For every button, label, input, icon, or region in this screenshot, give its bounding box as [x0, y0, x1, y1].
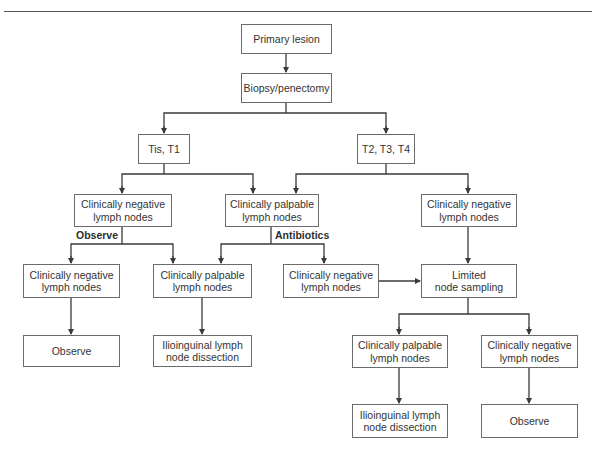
node-observe-l6-right: Observe: [481, 404, 578, 438]
node-label-line2: node sampling: [435, 281, 503, 294]
node-label-line2: node dissection: [364, 421, 437, 434]
node-limited-node-sampling: Limited node sampling: [421, 264, 517, 298]
node-clinically-negative-l3-right: Clinically negative lymph nodes: [421, 194, 517, 227]
node-observe-l5-left: Observe: [23, 335, 120, 367]
node-label: T2, T3, T4: [362, 143, 410, 156]
node-ilioinguinal-dissection-l6-right: Ilioinguinal lymph node dissection: [352, 404, 448, 438]
edge-label-antibiotics: Antibiotics: [275, 229, 329, 241]
node-label: Observe: [52, 345, 92, 358]
node-label-line2: lymph nodes: [93, 211, 153, 224]
node-label-line2: lymph nodes: [439, 211, 499, 224]
node-label-line1: Ilioinguinal lymph: [162, 339, 243, 352]
node-label-line1: Clinically palpable: [230, 198, 314, 211]
node-label-line1: Limited: [452, 269, 486, 282]
node-clinically-palpable-l4-left: Clinically palpable lymph nodes: [153, 264, 252, 298]
node-biopsy-penectomy: Biopsy/penectomy: [241, 73, 332, 103]
node-label-line1: Clinically negative: [487, 339, 571, 352]
node-clinically-negative-l5-right: Clinically negative lymph nodes: [481, 335, 578, 368]
node-label: Tis, T1: [148, 143, 180, 156]
node-label-line2: node dissection: [166, 351, 239, 364]
node-label: Observe: [510, 415, 550, 428]
node-label: Biopsy/penectomy: [244, 82, 330, 95]
node-label-line2: lymph nodes: [42, 281, 102, 294]
edge-label-observe: Observe: [76, 229, 118, 241]
node-label-line1: Clinically negative: [289, 269, 373, 282]
node-clinically-palpable-l5-right: Clinically palpable lymph nodes: [352, 335, 448, 368]
node-label-line1: Clinically negative: [427, 198, 511, 211]
node-label-line2: lymph nodes: [301, 281, 361, 294]
node-label-line2: lymph nodes: [370, 352, 430, 365]
node-label: Primary lesion: [253, 33, 320, 46]
node-label-line2: lymph nodes: [500, 352, 560, 365]
node-tis-t1: Tis, T1: [138, 134, 190, 164]
node-label-line1: Clinically palpable: [358, 339, 442, 352]
node-label-line1: Clinically negative: [81, 198, 165, 211]
node-label-line2: lymph nodes: [242, 211, 302, 224]
node-primary-lesion: Primary lesion: [241, 24, 332, 54]
node-t2-t3-t4: T2, T3, T4: [357, 134, 415, 164]
node-label-line1: Clinically negative: [29, 269, 113, 282]
node-clinically-negative-l4-mid: Clinically negative lymph nodes: [283, 264, 379, 298]
node-label-line1: Ilioinguinal lymph: [360, 409, 441, 422]
node-label-line2: lymph nodes: [173, 281, 233, 294]
node-label-line1: Clinically palpable: [160, 269, 244, 282]
node-clinically-negative-l4-far-left: Clinically negative lymph nodes: [23, 264, 120, 298]
node-ilioinguinal-dissection-l5-left: Ilioinguinal lymph node dissection: [153, 335, 252, 367]
node-clinically-negative-l3-left: Clinically negative lymph nodes: [74, 194, 172, 227]
node-clinically-palpable-l3-mid: Clinically palpable lymph nodes: [225, 194, 319, 227]
